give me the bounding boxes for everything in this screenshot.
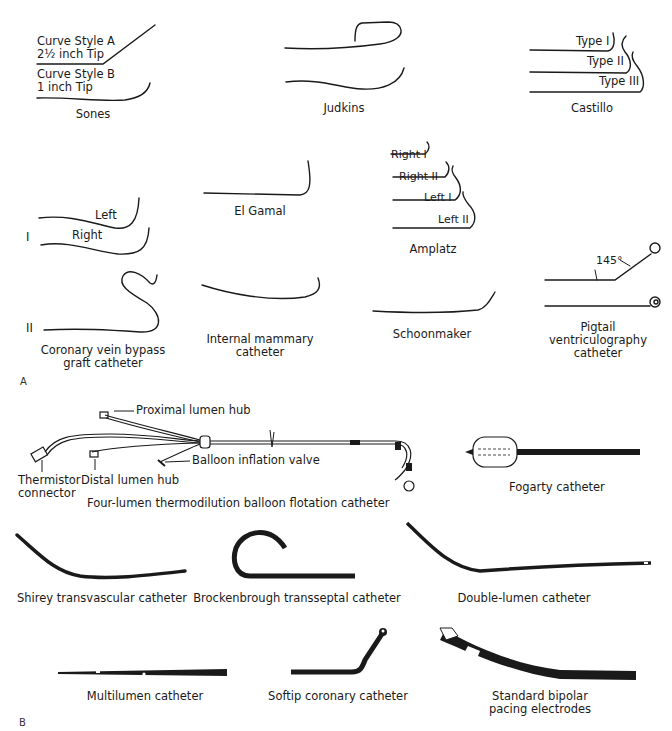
right-label: Right: [72, 229, 102, 242]
coronary-vein-title: Coronary vein bypass graft catheter: [41, 344, 166, 370]
proximal-lumen-hub-label: Proximal lumen hub: [136, 404, 251, 417]
left-label: Left: [95, 209, 117, 222]
internal-mammary-title: Internal mammary catheter: [206, 333, 313, 359]
bipolar-title: Standard bipolar pacing electrodes: [474, 690, 606, 716]
panel-a-label: A: [20, 375, 27, 388]
judkins-title: Judkins: [323, 102, 364, 115]
sones-curve-a-label: Curve Style A 2½ inch Tip: [37, 35, 115, 61]
sones-title: Sones: [76, 108, 111, 121]
fogarty-title: Fogarty catheter: [509, 481, 605, 494]
schoonmaker-title: Schoonmaker: [393, 328, 472, 341]
pigtail-line3: catheter: [549, 347, 647, 360]
multilumen-title: Multilumen catheter: [87, 690, 203, 703]
four-lumen-title: Four-lumen thermodilution balloon flotat…: [87, 497, 390, 510]
double-lumen-title: Double-lumen catheter: [457, 592, 590, 605]
amplatz-right-2: Right II: [399, 170, 438, 183]
castillo-type-2: Type II: [587, 55, 624, 68]
castillo-type-3: Type III: [599, 75, 639, 88]
brockenbrough-title: Brockenbrough transseptal catheter: [193, 592, 401, 605]
row-i-label: I: [26, 231, 29, 244]
panel-b-label: B: [19, 716, 26, 729]
pigtail-angle-label: 145°: [596, 254, 623, 267]
balloon-inflation-valve-label: Balloon inflation valve: [192, 454, 320, 467]
brockenbrough-catheter: [234, 533, 355, 576]
left-curve: [39, 198, 139, 228]
sones-curve-b-label: Curve Style B 1 inch Tip: [37, 68, 115, 94]
amplatz-title: Amplatz: [409, 243, 456, 256]
castillo-title: Castillo: [571, 102, 613, 115]
softip-catheter: [291, 628, 387, 672]
internal-mammary-line2: catheter: [206, 346, 313, 359]
shirey-catheter: [17, 535, 185, 577]
amplatz-right-1: Right I: [391, 148, 427, 161]
thermistor-connector-label: Thermistor connector: [18, 474, 81, 500]
softip-title: Softip coronary catheter: [268, 690, 408, 703]
thermistor-line2: connector: [18, 487, 81, 500]
row-ii-label: II: [26, 322, 33, 335]
judkins-right: [286, 68, 404, 89]
coronary-vein-curve: [44, 272, 159, 332]
amplatz-left-1: Left I: [424, 191, 451, 204]
castillo-type-1: Type I: [576, 35, 609, 48]
distal-lumen-hub-label: Distal lumen hub: [81, 474, 179, 487]
pigtail-title: Pigtail ventriculography catheter: [549, 321, 647, 360]
internal-mammary-curve: [202, 278, 319, 299]
curve-a-tip-text: 2½ inch Tip: [37, 48, 115, 61]
el-gamal-curve: [204, 161, 310, 195]
multilumen-catheter: [58, 669, 227, 676]
schoonmaker-curve: [373, 292, 495, 312]
coronary-vein-line2: graft catheter: [41, 357, 166, 370]
judkins-left: [285, 22, 401, 49]
shirey-title: Shirey transvascular catheter: [17, 592, 187, 605]
bipolar-pacing-electrodes: [440, 628, 636, 680]
amplatz-left-2: Left II: [438, 213, 469, 226]
curve-b-tip-text: 1 inch Tip: [37, 81, 115, 94]
fogarty-catheter: [465, 437, 640, 467]
double-lumen-catheter: [407, 523, 651, 571]
el-gamal-title: El Gamal: [234, 205, 286, 218]
